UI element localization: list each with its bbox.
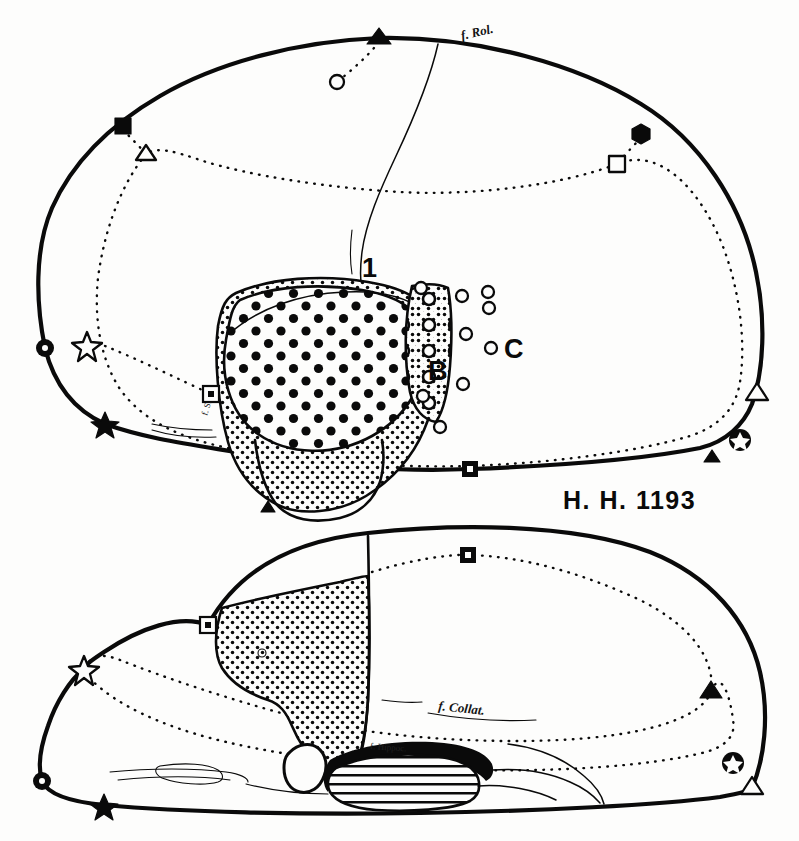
- figure-root: f. Rol. 1 B C f. S. H. H. 1193: [0, 0, 799, 841]
- star-in-circle-marker: [729, 429, 751, 451]
- region-b-label: B: [428, 356, 448, 386]
- square-open-dot-left-marker: [203, 386, 219, 402]
- brain-diagram-svg: f. Rol. 1 B C f. S. H. H. 1193: [0, 0, 799, 841]
- square-open-dot-lower-marker: [200, 617, 216, 633]
- open-square-right-marker: [609, 156, 625, 172]
- square-filled-dot-top-marker: [460, 547, 476, 563]
- star-in-circle-lower-marker: [722, 752, 744, 774]
- lower-brainstem-shape: [284, 745, 326, 793]
- filled-hexagon-marker: [632, 124, 650, 144]
- region-one-label: 1: [362, 253, 377, 283]
- specimen-id-label: H. H. 1193: [563, 486, 696, 514]
- open-circle-top-marker: [330, 75, 344, 89]
- filled-square-marker: [115, 118, 131, 134]
- square-filled-dot-lower-marker: [462, 461, 478, 477]
- filled-circle-dot-marker: [36, 339, 54, 357]
- circle-filled-dot-lower-marker: [33, 772, 51, 790]
- region-c-label: C: [504, 334, 524, 364]
